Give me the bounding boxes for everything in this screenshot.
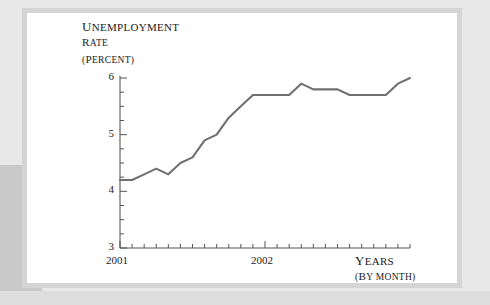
y-tick-label: 6	[98, 70, 114, 82]
unemployment-line-chart	[0, 0, 490, 305]
y-axis-title-line3: (PERCENT)	[82, 53, 134, 65]
y-tick-label: 5	[98, 127, 114, 139]
unemployment-rate-line	[120, 78, 410, 180]
y-tick-label: 4	[98, 183, 114, 195]
x-axis-title-line2: (BY MONTH)	[355, 270, 416, 282]
y-axis-title-line2: RATE	[82, 36, 108, 48]
x-tick-label: 2001	[106, 254, 128, 266]
y-axis-title-line1: UNEMPLOYMENT	[82, 19, 179, 35]
x-tick-label: 2002	[251, 254, 273, 266]
y-tick-label: 3	[98, 240, 114, 252]
x-axis-title-line1: YEARS	[355, 253, 394, 269]
